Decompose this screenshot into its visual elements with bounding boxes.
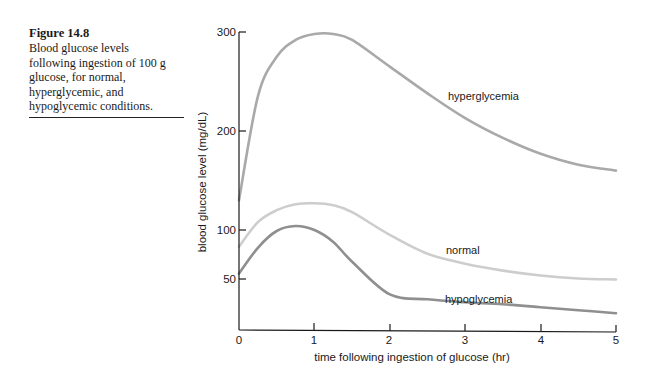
hypoglycemia-curve: [239, 226, 616, 313]
x-axis: 0 1 2 3 4 5: [236, 323, 619, 346]
x-tick-1: 1: [311, 334, 317, 346]
y-tick-200: 200: [217, 125, 236, 137]
y-tick-100: 100: [217, 224, 236, 236]
x-tick-2: 2: [386, 334, 392, 346]
x-tick-4: 4: [538, 334, 545, 346]
hyperglycemia-curve: [239, 33, 616, 200]
x-tick-0: 0: [236, 334, 242, 346]
y-tick-300: 300: [217, 26, 236, 38]
hyperglycemia-label: hyperglycemia: [448, 90, 520, 102]
x-axis-label: time following ingestion of glucose (hr): [314, 351, 510, 363]
normal-label: normal: [446, 244, 480, 256]
hypoglycemia-label: hypoglycemia: [445, 293, 513, 305]
x-tick-5: 5: [613, 334, 619, 346]
x-tick-3: 3: [462, 334, 468, 346]
y-axis-label: blood glucose level (mg/dL): [196, 112, 208, 253]
y-tick-50: 50: [223, 273, 236, 285]
normal-curve: [239, 203, 616, 279]
line-chart: 300 200 100 50 0 1 2 3 4 5 time followin…: [0, 0, 648, 382]
